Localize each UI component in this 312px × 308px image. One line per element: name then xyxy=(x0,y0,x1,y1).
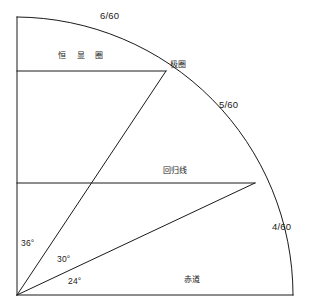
ray-to-tropic xyxy=(17,183,255,295)
arc-division-top-label: 6/60 xyxy=(100,11,119,21)
diagram-svg xyxy=(0,0,312,308)
diagram-canvas: 6/60 5/60 4/60 恒 显 圈 极圈 回归线 赤道 36° 30° 2… xyxy=(0,0,312,308)
angle-30-label: 30° xyxy=(57,255,70,264)
tropic-line-label: 回归线 xyxy=(163,167,187,175)
circumpolar-circle-label: 恒 显 圈 xyxy=(58,52,107,60)
angle-24-label: 24° xyxy=(68,277,81,286)
arc-division-bottom-label: 4/60 xyxy=(272,222,291,232)
polar-circle-label: 极圈 xyxy=(170,61,186,69)
arc-division-middle-label: 5/60 xyxy=(219,100,238,110)
equator-label: 赤道 xyxy=(184,276,200,284)
angle-36-label: 36° xyxy=(21,239,34,248)
